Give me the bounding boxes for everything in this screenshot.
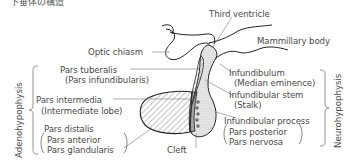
group-label-neurohypophysis: Neurohypophysis [333, 74, 343, 148]
label-pars-tuberalis: Pars tuberalis [60, 65, 117, 75]
label-infundibular-process-alt1: Pars posterior [229, 127, 287, 137]
label-cleft: Cleft [167, 145, 186, 155]
label-pars-intermedia-alt: (Intermediate lobe) [41, 106, 122, 116]
group-label-adenohypophysis: Adenohypophysis [14, 82, 24, 158]
label-third-ventricle: Third ventricle [209, 9, 270, 19]
label-pars-intermedia: Pars intermedia [36, 95, 102, 105]
label-infundibular-stem-alt: (Stalk) [234, 100, 261, 110]
label-infundibulum: Infundibulum [229, 68, 285, 78]
label-infundibular-process: Infundibular process [224, 116, 310, 126]
label-pars-distalis: Pars distalis [44, 124, 94, 134]
label-mammillary-body: Mammillary body [257, 36, 330, 46]
label-optic-chiasm: Optic chiasm [88, 47, 143, 57]
label-infundibulum-alt: (Median eminence) [234, 78, 315, 88]
label-infundibular-process-alt2: Pars nervosa [229, 137, 283, 147]
label-infundibular-stem: Infundibular stem [229, 90, 303, 100]
label-pars-distalis-alt2: Pars glandularis [47, 145, 114, 155]
label-pars-tuberalis-alt: (Pars infundibularis) [65, 75, 149, 85]
label-pars-distalis-alt1: Pars anterior [47, 135, 101, 145]
